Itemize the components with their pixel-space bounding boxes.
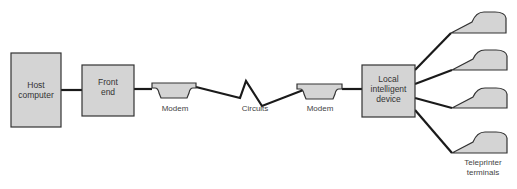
local-intelligent-device-label: Localintelligentdevice [362,65,415,113]
lid-label-line2: intelligent [371,84,407,94]
front-end-label-line2: end [98,87,118,97]
edge-lid-terminal1 [415,33,451,70]
lid-label-line3: device [371,94,407,104]
host-label-line1: Host [18,80,53,90]
host-computer-label: Hostcomputer [11,53,61,127]
teleprinter-terminal-1 [451,12,506,33]
modem-2-label: Modem [295,104,345,114]
front-end-label-line1: Front [98,77,118,87]
edge-lid-terminal4 [415,110,452,153]
teleprinter-terminals-label: Teleprinter terminals [455,158,511,178]
lid-label-line1: Local [371,74,407,84]
edge-circuits [196,81,306,106]
teleprinter-terminal-3 [452,88,507,108]
terminals-label-line2: terminals [455,168,511,178]
modem-1-shape [152,83,196,98]
host-label-line2: computer [18,90,53,100]
modem-1-label: Modem [150,104,200,114]
terminals-label-line1: Teleprinter [455,158,511,168]
diagram-canvas [0,0,517,189]
teleprinter-terminal-4 [452,132,507,153]
edge-lid-terminal2 [415,70,452,84]
edge-lid-terminal3 [415,98,452,108]
teleprinter-terminal-2 [452,50,507,70]
front-end-label: Frontend [82,65,134,109]
circuits-label: Circuits [225,104,285,114]
modem-2-shape [297,84,342,99]
